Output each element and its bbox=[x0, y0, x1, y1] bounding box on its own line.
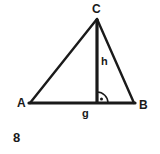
figure-number: 8 bbox=[13, 131, 20, 144]
altitude-label-h: h bbox=[101, 56, 108, 67]
right-angle-dot-icon bbox=[100, 98, 103, 101]
triangle-diagram bbox=[0, 0, 160, 154]
right-angle-arc-icon bbox=[97, 92, 108, 103]
vertex-label-a: A bbox=[17, 97, 26, 109]
vertex-label-c: C bbox=[92, 3, 101, 15]
base-label-g: g bbox=[82, 108, 89, 119]
geometry-figure: C A B h g 8 bbox=[0, 0, 160, 154]
vertex-label-b: B bbox=[139, 99, 148, 111]
side-ac-line bbox=[30, 19, 97, 103]
